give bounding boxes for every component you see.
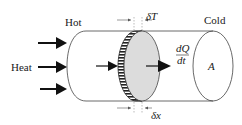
delta-x-marker: [117, 102, 152, 113]
label-cold: Cold: [204, 14, 226, 26]
label-delta-t: δT: [146, 10, 158, 22]
heat-conduction-diagram: Hot Cold Heat δT δx dQ dt A: [0, 0, 242, 125]
label-delta-x: δx: [151, 109, 161, 121]
heat-arrows: [38, 37, 67, 95]
heat-flux-arrow-head: [158, 60, 171, 72]
label-dq-dt: dQ dt: [176, 42, 190, 66]
label-dq: dQ: [176, 42, 190, 54]
label-area: A: [207, 60, 215, 72]
diagram-canvas: Hot Cold Heat δT δx dQ dt A: [0, 0, 242, 125]
label-hot: Hot: [65, 16, 82, 28]
inner-arrow-in-head: [108, 61, 118, 71]
label-heat: Heat: [11, 61, 32, 73]
hot-end-cap: [67, 31, 86, 101]
label-dt: dt: [177, 54, 187, 66]
